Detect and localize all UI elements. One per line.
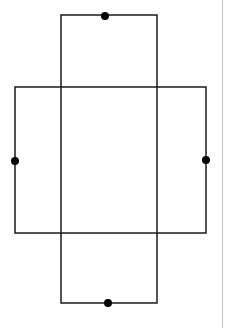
- right-dot: [202, 156, 210, 164]
- diagram-canvas: [0, 0, 225, 328]
- horizontal-rectangle: [15, 87, 206, 233]
- panel-divider: [222, 0, 223, 328]
- vertical-rectangle: [61, 15, 157, 303]
- bottom-dot: [104, 299, 112, 307]
- left-dot: [11, 157, 19, 165]
- top-dot: [101, 12, 109, 20]
